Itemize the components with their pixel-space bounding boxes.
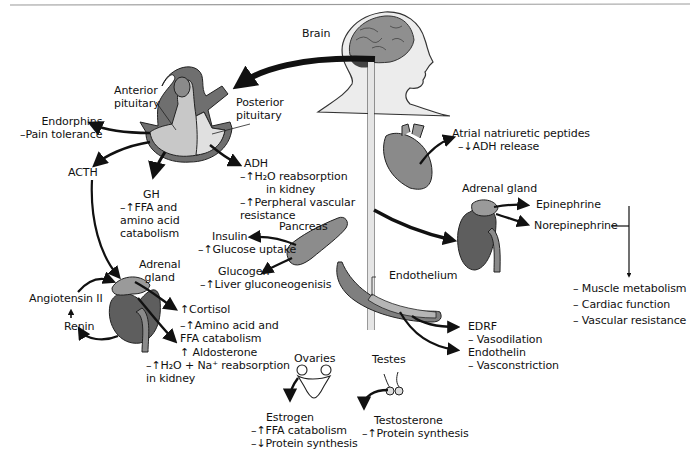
label-adh: ADH –↑H₂O reabsorption in kidney –↑Perph… (240, 157, 355, 222)
label-angiotensin: Angiotensin II (29, 292, 103, 305)
label-estrogen: Estrogen –↑FFA catabolism –↓Protein synt… (251, 411, 358, 450)
label-norepinephrine: Norepinephrine (534, 219, 618, 232)
label-testosterone: Testosterone –↑Protein synthesis (362, 414, 469, 440)
label-posterior-pituitary: Posterior pituitary (236, 96, 284, 122)
top-rule (10, 4, 690, 5)
estrogen-arrow (290, 378, 298, 398)
label-aldosterone: ↑ Aldosterone –↑H₂O + Na⁺ reabsorption i… (146, 346, 290, 385)
label-testes: Testes (372, 353, 406, 366)
label-adrenal-left: Adrenal gland (139, 258, 180, 284)
pituitary-icon (140, 67, 250, 162)
epinephrine-arrow (494, 205, 526, 207)
testosterone-arrow (364, 390, 388, 406)
label-gh: GH –↑FFA and amino acid catabolism (120, 188, 180, 240)
label-endorphins: Endorphins –Pain tolerance (20, 115, 102, 141)
label-atrial: Atrial natriuretic peptides –↓ADH releas… (452, 127, 590, 153)
acth-to-adrenal-arrow (92, 180, 118, 276)
label-anterior-pituitary: Anterior pituitary (114, 84, 160, 110)
label-renin: Renin (64, 320, 94, 333)
cord-to-adrenal-arrow (374, 210, 452, 240)
angiotensin-arrow (78, 279, 112, 292)
label-glucogen: Glucogen –↑Liver gluconeogenisis (200, 265, 331, 291)
testes-icon (384, 372, 403, 395)
label-acth: ACTH (68, 166, 98, 179)
label-epinephrine: Epinephrine (536, 198, 601, 211)
label-endothelin: Endothelin – Vasconstriction (468, 346, 559, 372)
label-endothelium: Endothelium (389, 269, 457, 282)
ovaries-icon (297, 365, 331, 398)
label-brain: Brain (302, 27, 330, 40)
label-cortisol: ↑Cortisol –↑Amino acid and FFA catabolis… (180, 303, 279, 345)
kidney-right-icon (458, 200, 501, 272)
label-adrenal-right: Adrenal gland (462, 182, 537, 195)
norepinephrine-arrow (496, 214, 526, 224)
acth-arrow (96, 142, 150, 164)
label-insulin: Insulin –↑Glucose uptake (198, 230, 296, 256)
label-ovaries: Ovaries (294, 352, 335, 365)
label-edrf: EDRF – Vasodilation (468, 320, 542, 346)
label-catecholamine-effects: – Muscle metabolism – Cardiac function –… (573, 281, 686, 329)
